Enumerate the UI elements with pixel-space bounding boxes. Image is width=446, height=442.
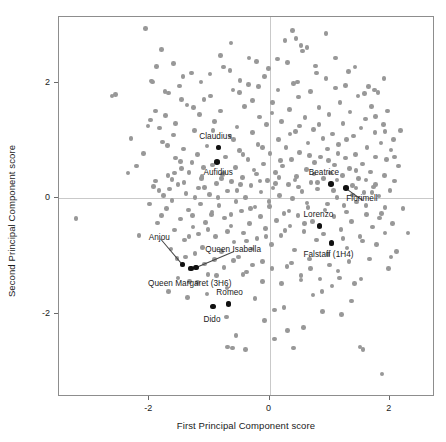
data-point <box>320 309 325 314</box>
data-point <box>285 264 290 269</box>
data-point <box>406 231 411 236</box>
data-point <box>321 136 326 141</box>
x-axis-tick <box>389 396 390 400</box>
data-point <box>364 212 369 217</box>
data-point <box>170 177 175 182</box>
data-point <box>236 255 241 260</box>
data-point <box>348 110 353 115</box>
y-axis-title: Second Principal Component score <box>0 0 22 442</box>
data-point <box>291 346 296 351</box>
data-point <box>279 119 284 124</box>
point-label: Romeo <box>216 288 243 297</box>
data-point <box>202 97 207 102</box>
data-point <box>290 28 295 33</box>
data-point <box>206 272 211 277</box>
data-point <box>234 199 239 204</box>
data-point <box>199 80 204 85</box>
data-point <box>196 232 201 237</box>
data-point <box>392 155 397 160</box>
data-point <box>113 92 118 97</box>
data-point <box>185 295 190 300</box>
data-point <box>248 206 253 211</box>
data-point <box>315 187 320 192</box>
point-label: Dido <box>203 315 220 324</box>
data-point <box>250 98 255 103</box>
data-point <box>147 202 152 207</box>
data-point <box>273 170 278 175</box>
plot-area <box>58 16 434 396</box>
data-point <box>389 255 394 260</box>
data-point <box>368 170 373 175</box>
data-point <box>398 128 403 133</box>
data-point <box>307 153 312 158</box>
highlighted-data-point <box>328 181 334 187</box>
data-point <box>153 109 158 114</box>
highlighted-data-point <box>329 240 335 246</box>
data-point <box>262 318 267 323</box>
data-point <box>336 269 341 274</box>
data-point <box>354 186 359 191</box>
data-point <box>233 165 238 170</box>
data-point <box>370 225 375 230</box>
data-point <box>359 126 364 131</box>
data-point <box>207 192 212 197</box>
data-point <box>241 231 246 236</box>
data-point <box>351 134 356 139</box>
data-point <box>310 219 315 224</box>
data-point <box>242 104 247 109</box>
data-point <box>74 216 79 221</box>
data-point <box>264 234 269 239</box>
data-point <box>250 263 255 268</box>
data-point <box>321 176 326 181</box>
data-point <box>151 184 156 189</box>
data-point <box>270 100 275 105</box>
data-point <box>244 239 249 244</box>
data-point <box>172 228 177 233</box>
data-point <box>299 278 304 283</box>
data-point <box>205 292 210 297</box>
data-point <box>360 239 365 244</box>
data-point <box>305 45 310 50</box>
data-point <box>292 248 297 253</box>
data-point <box>256 84 261 89</box>
data-point <box>342 203 347 208</box>
data-point <box>192 128 197 133</box>
data-point <box>325 147 330 152</box>
data-point <box>272 308 277 313</box>
data-point <box>336 142 341 147</box>
data-point <box>196 186 201 191</box>
data-point <box>318 277 323 282</box>
data-point <box>237 90 242 95</box>
data-point <box>258 179 263 184</box>
data-point <box>178 159 183 164</box>
data-point <box>254 59 259 64</box>
data-point <box>312 160 317 165</box>
data-point <box>373 130 378 135</box>
data-point <box>401 206 406 211</box>
y-axis-tick <box>54 313 58 314</box>
data-point <box>276 137 281 142</box>
data-point <box>193 195 198 200</box>
data-point <box>269 242 274 247</box>
data-point <box>243 347 248 352</box>
data-point <box>321 232 326 237</box>
data-point <box>172 171 177 176</box>
highlighted-data-point <box>188 266 194 272</box>
data-point <box>143 26 148 31</box>
data-point <box>317 105 322 110</box>
data-point <box>290 196 295 201</box>
data-point <box>353 152 358 157</box>
data-point <box>347 166 352 171</box>
data-point <box>218 109 223 114</box>
data-point <box>272 337 277 342</box>
data-point <box>167 187 172 192</box>
data-point <box>253 296 258 301</box>
data-point <box>268 151 273 156</box>
data-point <box>222 265 227 270</box>
data-point <box>302 221 307 226</box>
data-point <box>364 203 369 208</box>
data-point <box>314 238 319 243</box>
data-point <box>163 113 168 118</box>
data-point <box>205 144 210 149</box>
data-point <box>394 249 399 254</box>
